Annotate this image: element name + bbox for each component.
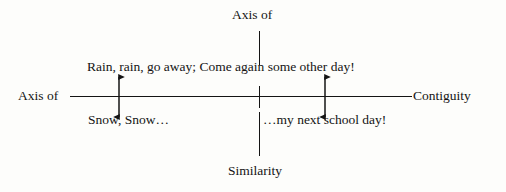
horizontal-axis-right-label: Contiguity: [413, 89, 471, 103]
vertical-axis-line-middle: [259, 86, 260, 108]
left-substitution-text: Snow, Snow…: [88, 113, 169, 127]
horizontal-axis-left-label: Axis of: [18, 89, 58, 103]
vertical-axis-line-bottom: [259, 112, 260, 156]
sentence-above-axis: Rain, rain, go away; Come again some oth…: [87, 60, 355, 74]
vertical-axis-top-label: Axis of: [232, 8, 272, 22]
diagram-canvas: Axis of Contiguity Axis of Similarity Ra…: [0, 0, 506, 192]
vertical-axis-bottom-label: Similarity: [228, 164, 282, 178]
right-substitution-text: …my next school day!: [263, 113, 386, 127]
